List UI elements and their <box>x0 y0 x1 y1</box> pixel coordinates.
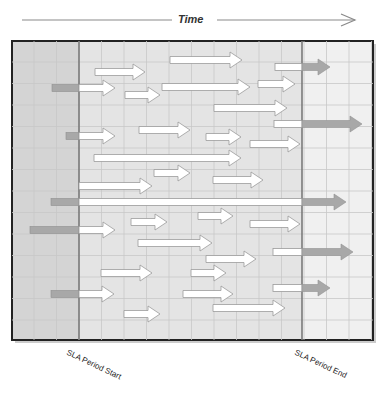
time-label: Time <box>178 13 203 25</box>
diagram-canvas <box>0 0 385 396</box>
sla-diagram: Time SLA Period Start SLA Period End <box>0 0 385 396</box>
